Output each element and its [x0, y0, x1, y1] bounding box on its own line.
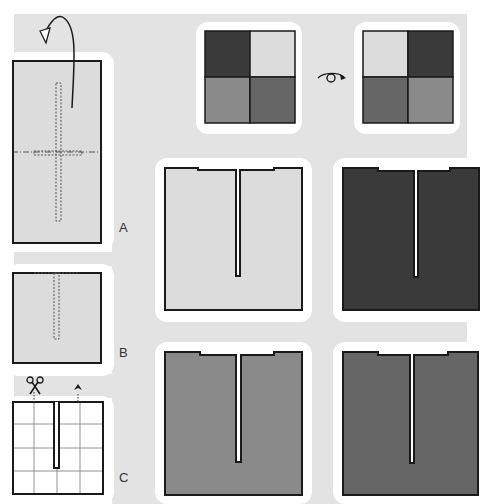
step-a-label: A — [119, 220, 128, 235]
arrow-up-icon — [74, 384, 82, 392]
step-b-guides — [12, 272, 102, 364]
color-key-after — [363, 31, 455, 125]
color-key-before — [205, 31, 297, 125]
background-band-results — [140, 322, 460, 344]
result-mid-paper — [164, 350, 304, 500]
step-c-paper — [12, 400, 104, 496]
fold-over-arrow-icon — [36, 14, 86, 114]
step-b-label: B — [119, 345, 128, 360]
result-darker-mid-paper — [342, 351, 482, 501]
result-light-paper — [164, 166, 304, 314]
result-dark-paper — [342, 167, 482, 315]
step-c-label: C — [119, 470, 128, 485]
turn-over-icon — [316, 70, 348, 84]
